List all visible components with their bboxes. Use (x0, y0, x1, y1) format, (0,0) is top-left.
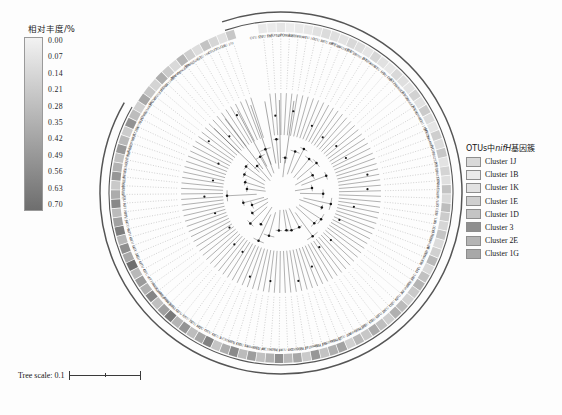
support-node (251, 204, 254, 207)
heat-cell (237, 349, 247, 360)
internal-branch (250, 207, 267, 224)
heat-cell (303, 25, 313, 35)
heat-cell (267, 23, 276, 32)
heat-cell (117, 234, 128, 245)
heat-cell (116, 144, 127, 155)
internal-branch (283, 158, 285, 177)
support-node (256, 165, 259, 168)
legend-label-7: Cluster 1G (485, 249, 519, 258)
support-node (335, 145, 337, 147)
heat-cell (302, 351, 312, 361)
support-node (246, 188, 249, 191)
legend-item-1[interactable]: Cluster 1B (466, 170, 560, 180)
heat-cell (111, 181, 120, 190)
legend-swatch-3 (466, 196, 481, 206)
leader-line (213, 286, 235, 332)
leader-line (262, 296, 268, 347)
support-node (325, 175, 328, 178)
heat-cell (438, 157, 448, 167)
legend-item-5[interactable]: Cluster 3 (466, 222, 560, 232)
leader-line (169, 86, 206, 121)
leader-line (165, 262, 203, 296)
internal-branch (265, 149, 274, 173)
support-node (345, 157, 347, 159)
support-node (245, 165, 248, 168)
support-node (260, 223, 263, 226)
leader-line (385, 196, 436, 198)
colorbar-tick-1: 0.07 (48, 53, 63, 61)
tip-labels: OTU 121OTU 186OTU 140KY123171.1PQ064480.… (121, 33, 441, 353)
support-node (313, 222, 316, 225)
legend-label-3: Cluster 1E (485, 197, 518, 206)
leader-line (182, 74, 215, 113)
tip-branch (206, 232, 237, 260)
support-node (303, 148, 306, 151)
legend-item-2[interactable]: Cluster 1K (466, 183, 560, 193)
internal-branch (269, 212, 276, 236)
leader-line (171, 266, 207, 302)
leader-line (325, 53, 347, 99)
tip-branch (181, 197, 223, 200)
leader-line (175, 80, 210, 117)
legend-item-6[interactable]: Cluster 2E (466, 236, 560, 246)
support-node (297, 280, 299, 282)
leader-line (291, 296, 296, 347)
support-node (311, 174, 314, 177)
cluster-legend: OTUs中nifH基因簇 Cluster 1JCluster 1BCluster… (466, 142, 560, 262)
tip-branch (319, 118, 347, 150)
tip-branch (314, 111, 338, 145)
tip-branch (297, 97, 308, 137)
tip-branch (184, 206, 225, 216)
leader-line (335, 282, 361, 326)
leader-line (148, 113, 192, 139)
tip-branch (181, 188, 223, 190)
tip-branch (246, 99, 261, 138)
tip-branch (210, 234, 240, 264)
heat-cell (286, 23, 295, 32)
leader-line (383, 214, 433, 224)
leader-line (140, 128, 186, 149)
heat-cell (111, 199, 121, 208)
support-node (269, 280, 271, 282)
support-node (366, 188, 368, 190)
leader-line (126, 200, 177, 203)
leader-line (303, 295, 314, 345)
leader-line (292, 39, 298, 90)
support-node (338, 219, 340, 221)
leader-line (382, 156, 431, 168)
colorbar-tick-10: 0.70 (48, 201, 63, 209)
legend-item-4[interactable]: Cluster 1D (466, 209, 560, 219)
tip-branch (231, 107, 252, 143)
leader-line (226, 48, 244, 96)
tip-branch (203, 229, 236, 255)
leader-line (163, 92, 202, 125)
leader-line (364, 255, 405, 286)
tip-branch (287, 94, 292, 136)
support-node (257, 240, 260, 243)
leader-line (135, 228, 183, 245)
support-node (311, 265, 313, 267)
legend-item-0[interactable]: Cluster 1J (466, 157, 560, 167)
tip-branch (339, 198, 381, 202)
leader-line (385, 181, 436, 185)
support-node (290, 229, 293, 232)
tip-branch (339, 191, 381, 192)
support-node (226, 195, 229, 198)
internal-branch (252, 198, 268, 205)
tip-branch (183, 172, 224, 181)
legend-item-7[interactable]: Cluster 1G (466, 249, 560, 259)
tip-branch (324, 125, 355, 153)
leader-line (304, 42, 315, 92)
tip-branch (287, 251, 291, 293)
internal-branch (289, 208, 299, 227)
tip-branch (305, 246, 323, 284)
tip-branch (205, 128, 237, 155)
leader-line (380, 225, 429, 241)
tip-branch (334, 153, 373, 170)
leader-line (272, 38, 275, 89)
tip-branch (330, 139, 365, 162)
leader-line (189, 69, 219, 110)
leader-line (160, 258, 200, 290)
legend-item-3[interactable]: Cluster 1E (466, 196, 560, 206)
ladder-branch (214, 128, 259, 172)
